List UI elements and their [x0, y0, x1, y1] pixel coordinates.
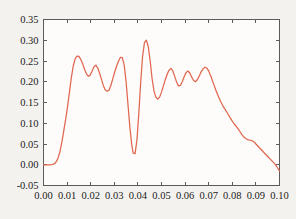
x-tick-label: 0.05: [152, 190, 170, 201]
y-tick-label: 0.05: [20, 139, 38, 150]
line-chart: 0.000.010.020.030.040.050.060.070.080.09…: [0, 0, 296, 219]
y-tick-label: 0.00: [20, 159, 38, 170]
x-tick-label: 0.07: [200, 190, 218, 201]
y-tick-label: 0.20: [20, 76, 38, 87]
x-tick-labels: 0.000.010.020.030.040.050.060.070.080.09…: [34, 190, 288, 201]
axes-background: [44, 20, 280, 186]
y-tick-label: 0.10: [20, 118, 38, 129]
x-tick-label: 0.04: [129, 190, 148, 201]
y-tick-label: -0.05: [17, 180, 39, 191]
x-tick-label: 0.03: [105, 190, 123, 201]
y-tick-label: 0.30: [20, 35, 38, 46]
x-tick-label: 0.08: [223, 190, 241, 201]
y-tick-label: 0.25: [20, 56, 38, 67]
x-tick-label: 0.10: [270, 190, 288, 201]
y-tick-label: 0.35: [20, 14, 38, 25]
x-tick-label: 0.06: [176, 190, 194, 201]
x-tick-label: 0.09: [247, 190, 265, 201]
chart-figure: 0.000.010.020.030.040.050.060.070.080.09…: [0, 0, 296, 219]
y-tick-label: 0.15: [20, 97, 38, 108]
y-tick-labels: -0.050.000.050.100.150.200.250.300.35: [17, 14, 39, 191]
x-tick-label: 0.02: [82, 190, 100, 201]
x-tick-label: 0.01: [58, 190, 76, 201]
